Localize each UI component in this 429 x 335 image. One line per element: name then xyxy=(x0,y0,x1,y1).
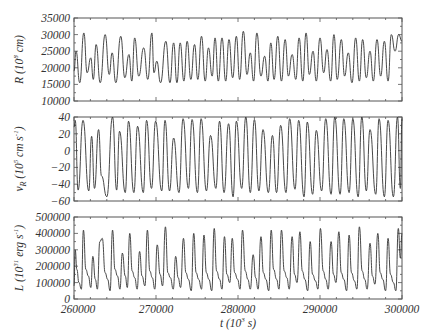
y-tick-label: 30000 xyxy=(40,29,70,41)
y-tick-label: −20 xyxy=(51,161,71,173)
y-tick-label: 300000 xyxy=(35,244,71,256)
y-axis-label: R (108 cm) xyxy=(12,35,26,85)
x-axis-label: t (103 s) xyxy=(220,316,256,330)
panel-radius: 100001500020000250003000035000R (108 cm) xyxy=(12,12,402,107)
y-tick-label: 40 xyxy=(59,111,71,123)
y-tick-label: 20 xyxy=(59,128,71,140)
y-axis-label: L (1031 erg s-1) xyxy=(12,225,26,292)
y-tick-label: 400000 xyxy=(36,227,71,239)
figure: 100001500020000250003000035000R (108 cm)… xyxy=(0,0,429,335)
y-tick-label: 20000 xyxy=(41,62,70,74)
y-tick-label: 25000 xyxy=(41,45,70,57)
series-line-l xyxy=(74,227,402,291)
y-tick-label: 100000 xyxy=(36,277,71,289)
y-tick-label: 0 xyxy=(64,145,70,157)
y-tick-label: −60 xyxy=(51,195,71,207)
x-tick-label: 270000 xyxy=(139,303,174,315)
y-tick-label: −40 xyxy=(51,178,71,190)
y-tick-label: 35000 xyxy=(40,12,70,24)
y-tick-label: 200000 xyxy=(36,260,71,272)
y-tick-label: 500000 xyxy=(36,211,71,223)
y-axis-label: vR (105 cm s-1) xyxy=(12,126,28,191)
y-tick-label: 15000 xyxy=(41,78,70,90)
x-tick-label: 260000 xyxy=(61,303,96,315)
panel-velocity: −60−40−2002040vR (105 cm s-1) xyxy=(12,111,402,207)
x-tick-label: 300000 xyxy=(384,303,420,315)
series-line-v-r xyxy=(74,117,402,197)
panel-luminosity: 0100000200000300000400000500000260000270… xyxy=(12,211,420,330)
x-tick-label: 280000 xyxy=(221,303,256,315)
series-line-r xyxy=(74,31,402,82)
y-tick-label: 10000 xyxy=(41,95,70,107)
x-tick-label: 290000 xyxy=(303,303,338,315)
